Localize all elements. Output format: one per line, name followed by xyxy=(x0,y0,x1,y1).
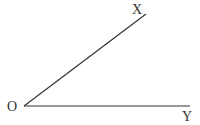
angle-diagram: O X Y xyxy=(0,0,200,125)
label-y: Y xyxy=(182,109,192,124)
label-o: O xyxy=(7,99,17,114)
angle-svg: O X Y xyxy=(0,0,200,125)
ray-ox xyxy=(24,14,146,106)
label-x: X xyxy=(132,2,142,17)
